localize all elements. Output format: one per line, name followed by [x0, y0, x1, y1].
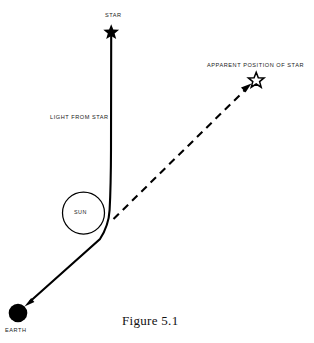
apparent-position-label: APPARENT POSITION OF STAR — [207, 63, 304, 69]
sun-label: SUN — [74, 210, 87, 215]
apparent-ray-path — [114, 89, 247, 220]
star-label: STAR — [105, 13, 122, 19]
earth-circle — [9, 304, 28, 323]
light-from-star-label: LIGHT FROM STAR — [50, 115, 109, 121]
figure-container: STAR APPARENT POSITION OF STAR LIGHT FRO… — [0, 0, 314, 343]
light-ray-path — [30, 33, 111, 302]
apparent-star-glyph — [248, 72, 264, 87]
figure-caption: Figure 5.1 — [122, 313, 178, 329]
apparent-ray-arrowhead — [241, 84, 252, 93]
diagram-canvas — [0, 0, 314, 343]
earth-label: EARTH — [5, 328, 27, 334]
